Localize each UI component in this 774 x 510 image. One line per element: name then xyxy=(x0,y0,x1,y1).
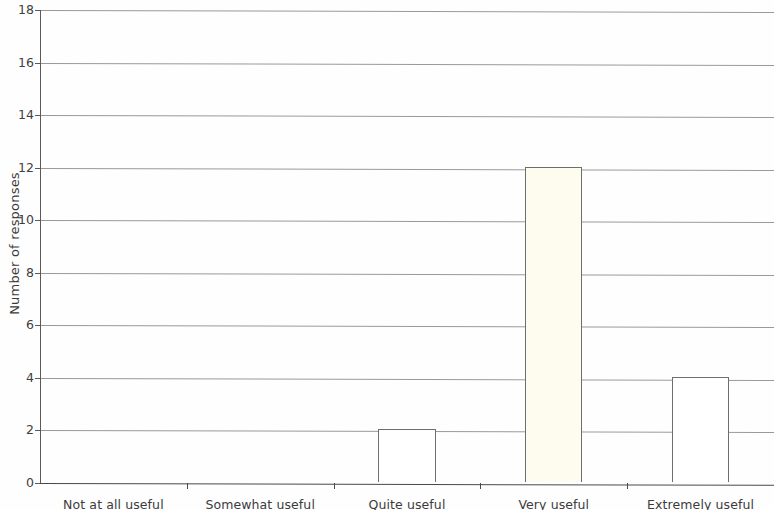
gridline xyxy=(40,168,774,171)
x-axis-category-label: Quite useful xyxy=(334,497,481,510)
bar-chart-figure: Number of responses 024681012141618 Not … xyxy=(0,0,774,510)
y-axis-tick-label: 4 xyxy=(0,370,34,385)
y-axis-line xyxy=(40,10,41,484)
y-axis-tick-label: 18 xyxy=(0,2,34,17)
plot-area: 024681012141618 Not at all usefulSomewha… xyxy=(40,10,774,483)
y-axis-tick-label: 10 xyxy=(0,212,34,227)
gridline xyxy=(40,325,774,328)
y-axis-tick-label: 12 xyxy=(0,160,34,175)
gridline xyxy=(40,63,774,66)
x-axis-category-label: Extremely useful xyxy=(627,497,774,510)
x-axis-tick-mark xyxy=(334,483,335,489)
gridline xyxy=(40,10,774,13)
x-axis-category-label: Not at all useful xyxy=(40,497,187,510)
gridline xyxy=(40,378,774,381)
bar xyxy=(672,377,729,482)
y-axis-tick-label: 8 xyxy=(0,265,34,280)
x-axis-tick-mark xyxy=(627,483,628,489)
y-axis-tick-label: 14 xyxy=(0,107,34,122)
y-axis-tick-label: 6 xyxy=(0,317,34,332)
x-axis-category-label: Somewhat useful xyxy=(187,497,334,510)
bar xyxy=(525,167,582,482)
gridline xyxy=(40,220,774,223)
y-axis-tick-label: 16 xyxy=(0,55,34,70)
y-axis-tick-label: 2 xyxy=(0,422,34,437)
x-axis-tick-mark xyxy=(480,483,481,489)
gridline xyxy=(40,273,774,276)
x-axis-tick-mark xyxy=(187,483,188,489)
bar xyxy=(378,429,435,482)
gridline xyxy=(40,115,774,118)
x-axis-category-label: Very useful xyxy=(480,497,627,510)
y-axis-tick-label: 0 xyxy=(0,475,34,490)
x-axis-line xyxy=(40,483,774,486)
